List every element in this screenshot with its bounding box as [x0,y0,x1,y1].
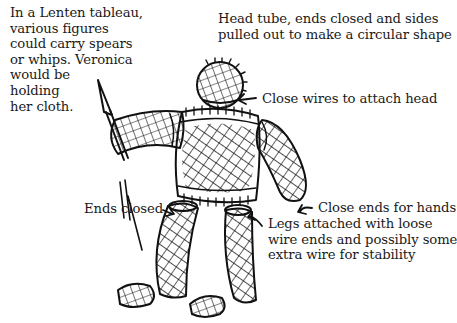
close-ends-hands-annotation: Close ends for hands [318,200,456,216]
left-arm [111,111,183,154]
head-tube-annotation: Head tube, ends closed and sides pulled … [218,11,452,42]
ends-closed-annotation: Ends closed [84,201,163,217]
intro-annotation: In a Lenten tableau, various figures cou… [10,5,143,114]
close-wires-annotation: Close wires to attach head [262,91,437,107]
right-leg [190,205,256,317]
legs-attached-annotation: Legs attached with loose wire ends and p… [268,216,457,263]
right-arm [257,120,306,201]
torso [176,106,260,206]
